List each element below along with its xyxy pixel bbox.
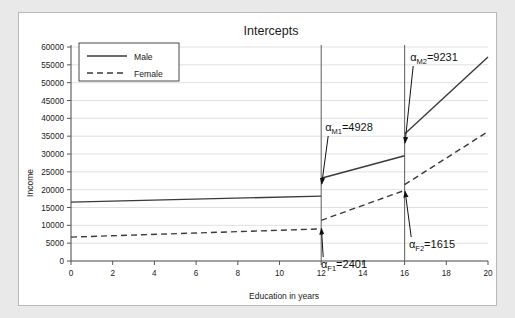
y-tick-label: 60000 — [41, 43, 64, 52]
y-tick-label: 30000 — [41, 150, 64, 159]
y-tick-label: 10000 — [41, 221, 64, 230]
x-tick-label: 8 — [236, 269, 241, 278]
y-axis-label: Income — [25, 169, 35, 197]
y-tick-label: 20000 — [41, 186, 64, 195]
x-tick-label: 12 — [317, 269, 327, 278]
x-tick-label: 18 — [442, 269, 452, 278]
y-tick-label: 25000 — [41, 168, 64, 177]
chart-figure: Intercepts Income Education in years 050… — [18, 12, 497, 306]
chart-title: Intercepts — [244, 24, 299, 38]
x-tick-label: 20 — [483, 269, 493, 278]
x-tick-label: 6 — [194, 269, 199, 278]
chart-legend: MaleFemale — [79, 43, 179, 81]
legend-label-female: Female — [134, 69, 163, 79]
y-tick-label: 15000 — [41, 204, 64, 213]
y-tick-label: 40000 — [41, 114, 64, 123]
x-tick-label: 2 — [110, 269, 115, 278]
y-tick-label: 45000 — [41, 97, 64, 106]
y-tick-label: 55000 — [41, 61, 64, 70]
x-tick-label: 10 — [275, 269, 285, 278]
y-tick-label: 50000 — [41, 79, 64, 88]
legend-box — [79, 43, 179, 81]
intercepts-line-chart: Intercepts Income Education in years 050… — [19, 13, 496, 305]
x-tick-label: 16 — [400, 269, 410, 278]
x-tick-label: 14 — [358, 269, 368, 278]
x-tick-label: 4 — [152, 269, 157, 278]
y-tick-label: 0 — [59, 257, 64, 266]
y-tick-label: 35000 — [41, 132, 64, 141]
y-tick-label: 5000 — [46, 239, 65, 248]
x-axis-label: Education in years — [249, 291, 319, 301]
legend-label-male: Male — [134, 52, 153, 62]
x-tick-label: 0 — [69, 269, 74, 278]
